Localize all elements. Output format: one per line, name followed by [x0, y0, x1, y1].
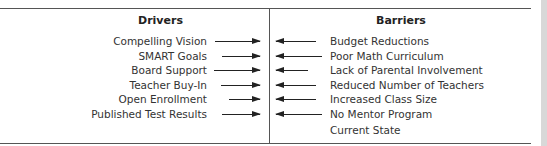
top-rule	[0, 8, 531, 9]
barrier-row: Reduced Number of Teachers	[0, 78, 547, 92]
current-state-row: Current State	[0, 123, 547, 137]
left-arrow-icon	[276, 114, 322, 115]
bottom-rule	[0, 143, 531, 144]
barrier-row: Lack of Parental Involvement	[0, 63, 547, 77]
barrier-row: Increased Class Size	[0, 92, 547, 106]
barriers-heading: Barriers	[376, 14, 426, 27]
barrier-label: No Mentor Program	[330, 107, 432, 121]
barrier-row: Poor Math Curriculum	[0, 49, 547, 63]
left-arrow-icon	[276, 41, 316, 42]
barrier-row: No Mentor Program	[0, 107, 547, 121]
barrier-label: Reduced Number of Teachers	[330, 78, 484, 92]
left-arrow-icon	[276, 70, 308, 71]
left-arrow-icon	[276, 99, 316, 100]
left-arrow-icon	[276, 56, 322, 57]
barrier-label: Lack of Parental Involvement	[330, 63, 483, 77]
barrier-label: Increased Class Size	[330, 92, 437, 106]
barrier-row: Budget Reductions	[0, 34, 547, 48]
drivers-heading: Drivers	[138, 14, 183, 27]
current-state-label: Current State	[330, 123, 401, 137]
left-arrow-icon	[276, 85, 316, 86]
barrier-label: Poor Math Curriculum	[330, 49, 444, 63]
barrier-label: Budget Reductions	[330, 34, 429, 48]
